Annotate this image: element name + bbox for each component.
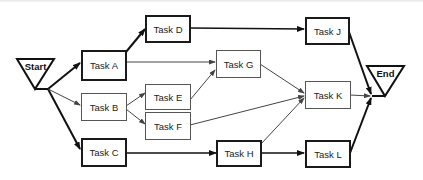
edge-l-end bbox=[350, 98, 371, 153]
task-h: Task H bbox=[216, 140, 262, 167]
edge-b-e bbox=[126, 93, 145, 106]
task-b: Task B bbox=[81, 93, 127, 121]
task-f: Task F bbox=[145, 112, 191, 140]
edge-j-end bbox=[349, 32, 371, 94]
start-label: Start bbox=[17, 61, 54, 72]
edge-d-j bbox=[190, 28, 304, 29]
edge-f-k bbox=[190, 96, 304, 125]
task-a: Task A bbox=[81, 50, 127, 81]
task-g: Task G bbox=[216, 50, 261, 78]
edge-e-g bbox=[190, 70, 215, 100]
task-e: Task E bbox=[145, 84, 191, 110]
task-l: Task L bbox=[305, 140, 351, 168]
task-c: Task C bbox=[81, 138, 127, 167]
edge-g-k bbox=[260, 64, 304, 93]
edge-a-d bbox=[126, 29, 145, 52]
task-d: Task D bbox=[145, 15, 191, 43]
end-label: End bbox=[367, 68, 404, 79]
edges-layer bbox=[0, 0, 423, 180]
edge-b-f bbox=[126, 109, 145, 124]
task-j: Task J bbox=[305, 17, 350, 45]
edge-start-c bbox=[48, 89, 80, 149]
task-k: Task K bbox=[305, 81, 351, 109]
edge-k-end bbox=[350, 95, 370, 96]
